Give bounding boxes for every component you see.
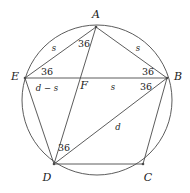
vertex-dot-d — [53, 163, 56, 166]
angle-at-E: 36 — [41, 67, 53, 77]
vertex-label-d: D — [43, 172, 52, 183]
pentagon-circle-diagram: ABCDEF3636363636ssd − ssd — [0, 0, 190, 193]
vertex-label-e: E — [11, 71, 19, 82]
angle-at-A: 36 — [78, 39, 90, 49]
length-EA-s: s — [52, 44, 56, 53]
length-EF-d-s: d − s — [36, 84, 58, 93]
diagram-canvas — [0, 0, 190, 193]
pentagon-edges-group — [25, 27, 167, 164]
vertex-label-a: A — [92, 9, 100, 20]
angle-at-D: 36 — [58, 143, 70, 153]
circumcircle-outline — [22, 25, 172, 175]
vertex-dot-a — [95, 26, 98, 29]
length-AB-s: s — [136, 44, 140, 53]
circumcircle-group — [22, 25, 172, 175]
vertex-dots-group — [24, 26, 169, 166]
vertex-dot-b — [166, 77, 169, 80]
angle-at-B-lower: 36 — [140, 82, 152, 92]
length-DB-d: d — [115, 123, 120, 132]
vertex-label-c: C — [144, 172, 152, 183]
length-FB-s: s — [111, 83, 115, 92]
vertex-label-b: B — [174, 71, 182, 82]
vertex-label-f: F — [80, 80, 88, 91]
vertex-dot-c — [142, 163, 145, 166]
side-AB — [96, 27, 167, 78]
angle-at-B-upper: 36 — [142, 67, 154, 77]
vertex-dot-e — [24, 77, 27, 80]
